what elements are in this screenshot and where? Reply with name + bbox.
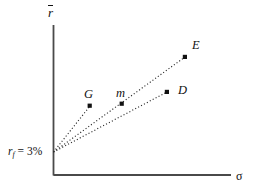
point-label-m: m [116, 87, 125, 100]
ray-to-G [54, 106, 91, 152]
risk-free-value: = 3% [18, 145, 43, 157]
risk-free-rate-label: rf = 3% [8, 146, 42, 158]
figure-canvas: r σ rf = 3% G m D E [0, 0, 253, 194]
point-label-G: G [84, 88, 93, 101]
x-axis-label: σ [236, 170, 242, 182]
data-point-E [183, 55, 187, 59]
point-label-E: E [192, 39, 200, 52]
ray-to-D [54, 92, 168, 152]
data-point-D [165, 90, 169, 94]
plot-svg [0, 0, 253, 194]
point-label-D: D [178, 84, 187, 97]
data-point-G [88, 104, 92, 108]
data-point-m [120, 102, 124, 106]
risk-free-subscript: f [12, 150, 14, 159]
ray-through-m-to-E [54, 57, 186, 152]
y-axis-label: r [48, 6, 53, 19]
